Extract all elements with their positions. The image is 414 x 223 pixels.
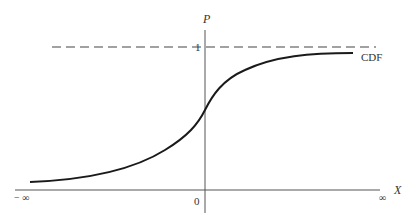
y-axis-label: P xyxy=(203,13,210,25)
pos-infinity-label: ∞ xyxy=(379,193,386,203)
cdf-curve xyxy=(30,53,353,182)
curve-label-cdf: CDF xyxy=(361,52,382,63)
neg-infinity-label: − ∞ xyxy=(14,193,29,203)
x-axis-label: X xyxy=(394,184,401,196)
y-tick-one-label: 1 xyxy=(195,42,201,53)
cdf-chart xyxy=(0,0,414,223)
origin-label: 0 xyxy=(194,196,200,207)
